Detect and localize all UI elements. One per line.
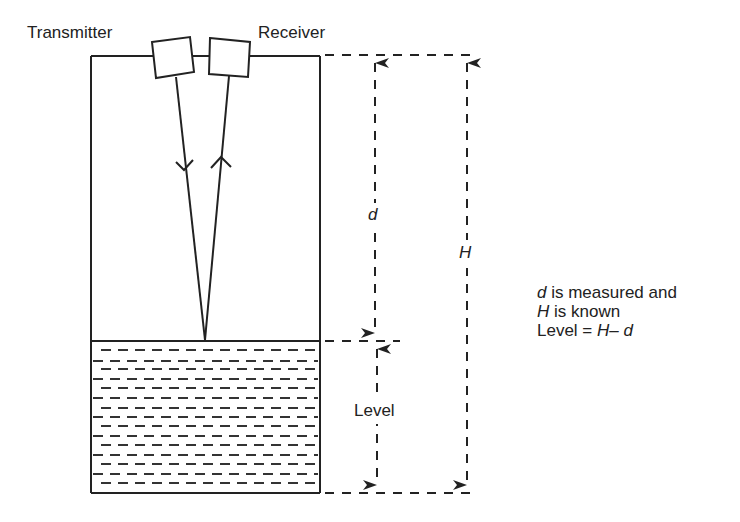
- explanation-note: d is measured and H is known Level = H– …: [537, 283, 677, 340]
- note-line-2: H is known: [537, 302, 677, 321]
- h-label: H: [459, 243, 471, 263]
- note-line-1-text: is measured and: [546, 283, 676, 302]
- transmitter-box: [152, 37, 194, 78]
- note-line-3-text: Level =: [537, 321, 597, 340]
- dimension-guides: [325, 55, 470, 493]
- d-label: d: [368, 205, 377, 225]
- liquid-hatching: [93, 350, 318, 483]
- note-formula: H– d: [597, 321, 633, 340]
- note-line-3: Level = H– d: [537, 321, 677, 340]
- receiver-label: Receiver: [258, 23, 325, 43]
- ultrasonic-beams: [176, 76, 231, 340]
- tank: [91, 56, 320, 493]
- ultrasonic-level-diagram: [0, 0, 740, 522]
- transmitter-label: Transmitter: [27, 23, 112, 43]
- note-line-2-text: is known: [549, 302, 620, 321]
- level-label: Level: [354, 401, 395, 421]
- receiver-box: [209, 38, 250, 77]
- note-h-symbol: H: [537, 302, 549, 321]
- note-line-1: d is measured and: [537, 283, 677, 302]
